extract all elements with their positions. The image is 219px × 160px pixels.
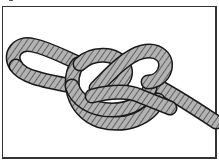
rope-knot-illustration: [0, 0, 219, 160]
rope-loop-lower: [16, 66, 72, 86]
